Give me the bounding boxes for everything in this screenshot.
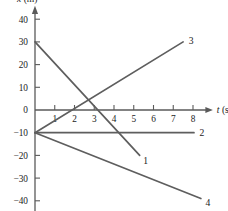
y-tick-label--40: −40: [13, 196, 28, 206]
series-label-2: 2: [199, 127, 204, 138]
y-tick-label--10: −10: [13, 128, 28, 138]
x-tick-label-7: 7: [171, 114, 176, 124]
position-time-graph: 403020100−10−20−30−40 12345678 1234 x (m…: [0, 0, 228, 211]
series-label-1: 1: [143, 155, 148, 166]
data-series-group: [35, 42, 201, 199]
series-label-4: 4: [205, 197, 210, 208]
series-label-3: 3: [189, 35, 194, 46]
y-tick-label-10: 10: [19, 83, 29, 93]
x-tick-label-2: 2: [72, 114, 77, 124]
chart-figure: 403020100−10−20−30−40 12345678 1234 x (m…: [0, 0, 228, 211]
x-tick-label-3: 3: [92, 114, 97, 124]
series-line-3: [35, 42, 183, 133]
series-line-4: [35, 133, 201, 199]
x-axis-title-unit: (s): [220, 104, 228, 116]
y-axis-title-unit: (m): [21, 0, 37, 5]
x-axis-arrow-icon: [205, 107, 213, 113]
y-tick-label-30: 30: [19, 37, 29, 47]
x-tick-label-6: 6: [151, 114, 156, 124]
x-axis-title: t (s): [217, 104, 228, 116]
axes-group: [32, 6, 213, 211]
y-tick-label-20: 20: [19, 60, 29, 70]
y-tick-label--30: −30: [13, 174, 28, 184]
x-tick-label-5: 5: [131, 114, 136, 124]
x-axis-tick-labels: 12345678: [52, 114, 195, 124]
y-axis-title: x (m): [16, 0, 38, 5]
y-axis-arrow-icon: [32, 6, 38, 14]
y-tick-label-0: 0: [23, 105, 28, 115]
y-tick-label--20: −20: [13, 151, 28, 161]
y-axis-tick-labels: 403020100−10−20−30−40: [13, 15, 28, 207]
x-tick-label-4: 4: [112, 114, 117, 124]
y-tick-label-40: 40: [19, 15, 29, 25]
x-tick-label-8: 8: [191, 114, 196, 124]
